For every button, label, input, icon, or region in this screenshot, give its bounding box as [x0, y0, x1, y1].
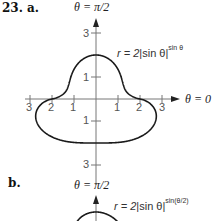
part-b-axis-top-label: θ = π/2 [74, 178, 109, 193]
eq-b-base: sin θ [139, 200, 162, 212]
part-a-axis-right-label: θ = 0 [185, 92, 211, 107]
eq-a-exponent: sin θ [168, 44, 183, 51]
part-b-label: b. [8, 176, 21, 190]
equation-a: r = 2|sin θ|sin θ [117, 44, 183, 59]
x-axis-arrow-icon [171, 96, 180, 102]
eq-b-exponent: sin(θ/2) [165, 197, 188, 204]
x-tick-label: 1 [114, 101, 120, 113]
y-axis-arrow-icon [93, 18, 99, 27]
equation-b: r = 2|sin θ|sin(θ/2) [114, 197, 189, 212]
y-tick-label: 1 [83, 71, 89, 83]
y-tick-label: 1 [83, 114, 89, 126]
x-tick-label: 2 [136, 101, 142, 113]
eq-a-lhs: r = 2 [117, 47, 139, 59]
y-tick-label: 3 [83, 158, 89, 170]
x-tick-label: 1 [70, 101, 76, 113]
x-tick-label: 3 [159, 101, 165, 113]
x-tick-label: 3 [26, 101, 32, 113]
eq-a-base: sin θ [142, 47, 165, 59]
y-axis-b-arrow-icon [93, 195, 99, 204]
x-tick-label: 2 [48, 101, 54, 113]
eq-b-lhs: r = 2 [114, 200, 136, 212]
y-tick-label: 3 [83, 27, 89, 39]
